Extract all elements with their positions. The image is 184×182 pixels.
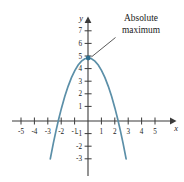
x-tick-label: 1 bbox=[100, 128, 104, 136]
y-axis-label: y bbox=[78, 14, 83, 23]
absolute-maximum-annotation: Absolute maximum bbox=[101, 13, 181, 36]
annotation-line-1: Absolute bbox=[101, 13, 181, 25]
annotation-leader-line bbox=[92, 38, 116, 57]
y-tick-label: -1 bbox=[76, 130, 82, 138]
x-tick-label: -4 bbox=[31, 128, 37, 136]
x-tick-label: -2 bbox=[58, 128, 64, 136]
x-tick-label: 3 bbox=[126, 128, 130, 136]
absolute-maximum-figure: -5 -4 -3 -2 -1 1 2 3 4 5 7 6 5 4 3 2 1 -… bbox=[0, 0, 184, 182]
x-tick-label: 4 bbox=[140, 128, 144, 136]
y-axis-tick-labels: 7 6 5 4 3 2 1 -1 -2 -3 bbox=[76, 27, 82, 163]
y-axis bbox=[85, 17, 92, 176]
absolute-maximum-point-marker bbox=[86, 56, 91, 61]
x-tick-label: 5 bbox=[153, 128, 157, 136]
x-tick-label: -3 bbox=[45, 128, 51, 136]
x-axis-label: x bbox=[173, 124, 178, 133]
x-axis bbox=[12, 118, 177, 125]
y-tick-label: 6 bbox=[78, 40, 82, 48]
x-tick-label: -5 bbox=[18, 128, 24, 136]
y-tick-label: 2 bbox=[78, 90, 82, 98]
y-tick-label: -2 bbox=[76, 143, 82, 151]
y-tick-label: 7 bbox=[78, 27, 82, 35]
annotation-line-2: maximum bbox=[101, 25, 181, 37]
x-tick-label: 2 bbox=[113, 128, 117, 136]
y-tick-label: 4 bbox=[78, 65, 82, 73]
y-tick-label: 1 bbox=[78, 103, 82, 111]
y-tick-label: -3 bbox=[76, 155, 82, 163]
y-tick-label: 5 bbox=[78, 53, 82, 61]
y-tick-label: 3 bbox=[78, 78, 82, 86]
